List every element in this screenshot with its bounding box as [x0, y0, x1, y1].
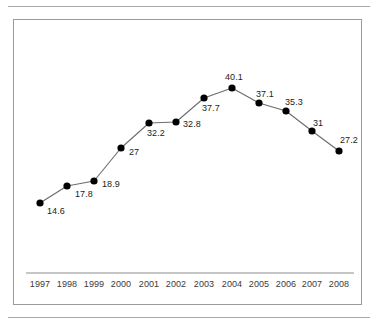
x-axis-tick-label: 2005: [245, 279, 273, 289]
data-point-marker[interactable]: [117, 144, 124, 151]
x-axis-tick-label: 2008: [325, 279, 353, 289]
data-point-label: 32.8: [183, 119, 201, 129]
x-axis-tick-label: 1997: [26, 279, 54, 289]
data-point-marker[interactable]: [63, 182, 70, 189]
data-point-label: 31: [313, 118, 323, 128]
data-point-label: 17.8: [75, 189, 93, 199]
x-axis-tick-label: 2002: [162, 279, 190, 289]
data-point-marker[interactable]: [145, 119, 152, 126]
figure-container: 14.617.818.92732.232.837.740.137.135.331…: [0, 0, 379, 325]
data-point-label: 27: [129, 147, 139, 157]
x-axis-tick-label: 1998: [53, 279, 81, 289]
data-point-label: 35.3: [285, 97, 303, 107]
top-divider-rule: [8, 6, 370, 7]
data-point-label: 14.6: [47, 206, 65, 216]
data-point-label: 37.7: [202, 103, 220, 113]
x-axis-tick-label: 2000: [107, 279, 135, 289]
data-point-label: 32.2: [147, 128, 165, 138]
bottom-divider-rule: [8, 317, 370, 318]
x-axis-tick-label: 1999: [80, 279, 108, 289]
chart-frame: 14.617.818.92732.232.837.740.137.135.331…: [13, 19, 362, 305]
data-point-marker[interactable]: [255, 99, 262, 106]
data-point-label: 27.2: [340, 135, 358, 145]
x-axis-tick-label: 2003: [190, 279, 218, 289]
x-axis-tick-label: 2001: [135, 279, 163, 289]
x-axis-tick-label: 2007: [298, 279, 326, 289]
line-chart-plot: [14, 20, 363, 306]
data-point-marker[interactable]: [282, 107, 289, 114]
data-point-marker[interactable]: [200, 94, 207, 101]
data-point-label: 40.1: [225, 72, 243, 82]
data-point-marker[interactable]: [335, 147, 342, 154]
data-point-marker[interactable]: [228, 84, 235, 91]
data-point-marker[interactable]: [172, 118, 179, 125]
data-point-label: 37.1: [256, 89, 274, 99]
data-point-marker[interactable]: [90, 177, 97, 184]
data-point-marker[interactable]: [36, 199, 43, 206]
x-axis-tick-label: 2004: [218, 279, 246, 289]
data-point-marker[interactable]: [308, 127, 315, 134]
data-point-label: 18.9: [102, 179, 120, 189]
x-axis-tick-label: 2006: [272, 279, 300, 289]
